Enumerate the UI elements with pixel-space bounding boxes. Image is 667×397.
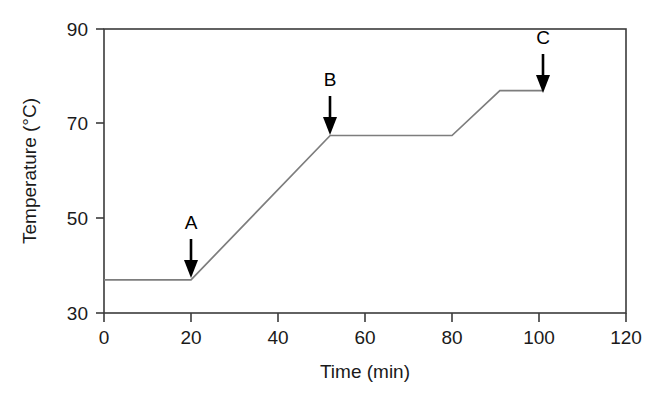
annotation-a-label: A: [185, 212, 198, 233]
annotation-c-label: C: [536, 27, 550, 48]
y-tick-label-70: 70: [67, 113, 88, 134]
y-axis-ticks: [96, 29, 104, 313]
y-tick-label-90: 90: [67, 19, 88, 40]
down-arrow-icon: [323, 117, 337, 135]
temperature-time-chart: 30 50 70 90 Temperature (°C) 0 20 40 60 …: [0, 0, 667, 397]
x-tick-label-40: 40: [267, 327, 288, 348]
annotation-a: A: [184, 212, 198, 278]
x-tick-label-80: 80: [441, 327, 462, 348]
x-tick-label-60: 60: [354, 327, 375, 348]
x-tick-label-20: 20: [180, 327, 201, 348]
annotation-b-label: B: [324, 69, 337, 90]
y-tick-label-30: 30: [67, 303, 88, 324]
annotation-b: B: [323, 69, 337, 135]
plot-frame: [104, 29, 626, 313]
y-axis-title: Temperature (°C): [19, 98, 40, 244]
x-tick-label-120: 120: [610, 327, 642, 348]
x-axis-title: Time (min): [320, 361, 410, 382]
x-axis-ticks: [104, 313, 626, 322]
x-tick-label-100: 100: [523, 327, 555, 348]
x-tick-label-0: 0: [99, 327, 110, 348]
annotation-c: C: [536, 27, 550, 93]
temperature-profile-line: [104, 91, 543, 280]
chart-figure: 30 50 70 90 Temperature (°C) 0 20 40 60 …: [0, 0, 667, 397]
y-tick-label-50: 50: [67, 208, 88, 229]
